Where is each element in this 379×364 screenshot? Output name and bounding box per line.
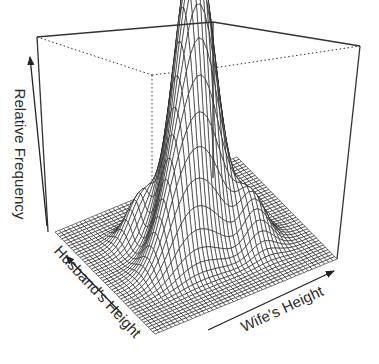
z-axis-label: Relative Frequency [12, 89, 29, 209]
z-axis-arrow [30, 57, 47, 226]
surface-plot [0, 0, 379, 364]
